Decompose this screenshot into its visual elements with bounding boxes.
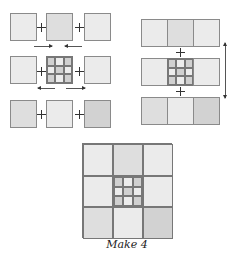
square-light [84, 13, 111, 41]
square-mid [46, 13, 73, 41]
block-square [83, 144, 113, 176]
plus-icon [176, 48, 185, 57]
arrow-right-icon [34, 46, 52, 47]
square-light [10, 56, 37, 84]
plus-icon [176, 87, 185, 96]
square-light [84, 56, 111, 84]
block-square [83, 176, 113, 207]
plus-icon [37, 110, 46, 119]
plus-icon [75, 67, 84, 76]
caption: Make 4 [82, 238, 172, 251]
square-light [141, 19, 168, 47]
block-square [143, 207, 173, 239]
square-light [46, 100, 73, 128]
arrow-left-icon [38, 88, 55, 89]
ninepatch-square [46, 56, 73, 84]
double-arrow-vertical-icon [225, 43, 226, 98]
plus-icon [37, 67, 46, 76]
ninepatch-square [167, 58, 194, 86]
square-dark [84, 100, 111, 128]
finished-block [82, 143, 172, 238]
square-light [141, 58, 168, 86]
square-dark [193, 97, 220, 125]
block-ninepatch [113, 176, 143, 207]
arrow-left-icon [65, 46, 82, 47]
square-light [167, 97, 194, 125]
arrow-right-icon [66, 88, 85, 89]
block-square [113, 207, 143, 239]
square-light [10, 13, 37, 41]
plus-icon [75, 110, 84, 119]
block-square [143, 144, 173, 176]
square-light [193, 19, 220, 47]
block-square [143, 176, 173, 207]
plus-icon [75, 23, 84, 32]
square-mid [141, 97, 168, 125]
block-square [113, 144, 143, 176]
plus-icon [37, 23, 46, 32]
block-square [83, 207, 113, 239]
square-mid [10, 100, 37, 128]
square-mid [167, 19, 194, 47]
square-light [193, 58, 220, 86]
